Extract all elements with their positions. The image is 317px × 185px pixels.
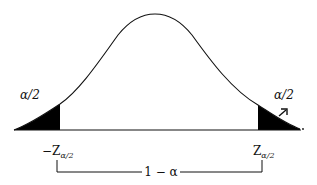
- normal-curve-diagram: α/2 α/2 −Zα/2 Zα/2 1 − α: [0, 0, 317, 185]
- right-tail-area-label: α/2: [274, 88, 294, 102]
- center-region-label: 1 − α: [144, 165, 177, 179]
- left-critical-value-subscript: α/2: [60, 151, 73, 160]
- left-critical-value: −Zα/2: [42, 144, 74, 160]
- left-tail-area-label: α/2: [20, 88, 40, 102]
- right-critical-value-main: Z: [253, 144, 261, 158]
- left-arrow-icon: [30, 109, 38, 116]
- left-critical-value-main: −Z: [42, 144, 60, 158]
- right-critical-value: Zα/2: [253, 144, 275, 160]
- axis-end-dot: [302, 128, 304, 130]
- right-critical-value-subscript: α/2: [261, 151, 274, 160]
- right-arrow-icon: [279, 109, 287, 116]
